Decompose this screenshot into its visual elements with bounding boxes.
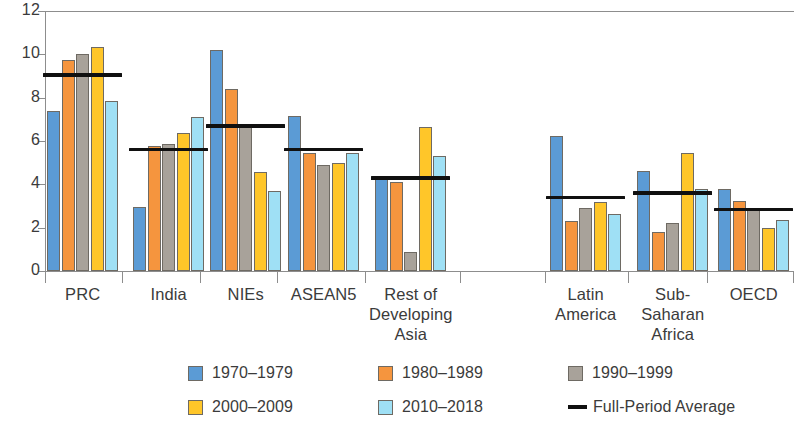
average-line bbox=[129, 148, 208, 151]
legend-swatch bbox=[378, 400, 393, 415]
bar bbox=[239, 126, 252, 271]
bar bbox=[433, 156, 446, 271]
average-line bbox=[633, 191, 712, 194]
x-axis-line bbox=[45, 271, 794, 272]
y-axis-tick-label: 4 bbox=[6, 174, 40, 192]
legend-label: Full-Period Average bbox=[593, 398, 735, 416]
x-axis-tick bbox=[45, 272, 46, 283]
x-axis-tick bbox=[628, 272, 629, 283]
legend-swatch bbox=[188, 366, 203, 381]
legend-swatch bbox=[188, 400, 203, 415]
y-axis-tick-label: 10 bbox=[6, 44, 40, 62]
legend-item[interactable]: Full-Period Average bbox=[568, 398, 735, 416]
bar bbox=[288, 116, 301, 271]
bar bbox=[550, 136, 563, 271]
average-line bbox=[546, 196, 625, 199]
average-line bbox=[206, 124, 285, 127]
bar bbox=[666, 223, 679, 271]
x-axis-tick bbox=[545, 272, 546, 283]
x-axis-tick bbox=[707, 272, 708, 283]
average-line bbox=[714, 208, 793, 211]
category-label-line: Rest of bbox=[351, 284, 471, 304]
legend-item[interactable]: 1970–1979 bbox=[188, 364, 293, 382]
x-axis-category-label: OECD bbox=[694, 284, 794, 304]
category-label-line: Saharan bbox=[613, 304, 733, 324]
bar bbox=[317, 165, 330, 271]
bar bbox=[390, 182, 403, 271]
legend-label: 1980–1989 bbox=[402, 364, 483, 382]
x-axis-tick bbox=[122, 272, 123, 283]
y-axis-tick-label: 8 bbox=[6, 88, 40, 106]
bar bbox=[210, 50, 223, 271]
bars-layer bbox=[45, 11, 794, 271]
legend-swatch bbox=[568, 366, 583, 381]
bar bbox=[76, 54, 89, 271]
bar bbox=[91, 47, 104, 271]
y-axis-tick-label: 2 bbox=[6, 218, 40, 236]
bar bbox=[695, 189, 708, 271]
bar bbox=[762, 228, 775, 271]
bar bbox=[681, 153, 694, 271]
y-axis-tick-label: 0 bbox=[6, 261, 40, 279]
grouped-bar-chart: 024681012 PRCIndiaNIEsASEAN5Rest ofDevel… bbox=[0, 0, 794, 427]
x-axis-tick bbox=[365, 272, 366, 283]
bar bbox=[346, 153, 359, 271]
bar bbox=[105, 101, 118, 271]
bar bbox=[747, 209, 760, 271]
bar bbox=[47, 111, 60, 271]
bar bbox=[254, 172, 267, 271]
bar bbox=[148, 146, 161, 271]
category-label-line: Developing bbox=[351, 304, 471, 324]
bar bbox=[375, 178, 388, 271]
bar bbox=[225, 89, 238, 271]
average-line bbox=[43, 73, 122, 76]
y-axis-tick-label: 6 bbox=[6, 131, 40, 149]
category-label-line: OECD bbox=[694, 284, 794, 304]
legend-item[interactable]: 2010–2018 bbox=[378, 398, 483, 416]
bar bbox=[608, 214, 621, 271]
legend-label: 1990–1999 bbox=[592, 364, 673, 382]
bar bbox=[579, 208, 592, 271]
bar bbox=[303, 153, 316, 271]
bar bbox=[776, 220, 789, 271]
average-line bbox=[371, 176, 450, 179]
legend-line-marker bbox=[568, 405, 587, 408]
category-label-line: Africa bbox=[613, 324, 733, 344]
bar bbox=[404, 252, 417, 272]
legend-item[interactable]: 2000–2009 bbox=[188, 398, 293, 416]
plot-area: 024681012 bbox=[45, 11, 794, 272]
chart-legend: 1970–19791980–19891990–19992000–20092010… bbox=[188, 364, 728, 422]
x-axis-tick bbox=[277, 272, 278, 283]
bar bbox=[162, 144, 175, 271]
bar bbox=[637, 171, 650, 271]
bar bbox=[133, 207, 146, 271]
legend-item[interactable]: 1990–1999 bbox=[568, 364, 673, 382]
bar bbox=[419, 127, 432, 271]
average-line bbox=[284, 148, 363, 151]
bar bbox=[565, 221, 578, 271]
bar bbox=[62, 60, 75, 271]
legend-swatch bbox=[378, 366, 393, 381]
y-axis-tick-label: 12 bbox=[6, 1, 40, 19]
bar bbox=[733, 201, 746, 271]
legend-item[interactable]: 1980–1989 bbox=[378, 364, 483, 382]
bar bbox=[652, 232, 665, 271]
legend-label: 2010–2018 bbox=[402, 398, 483, 416]
x-axis-category-label: Rest ofDevelopingAsia bbox=[351, 284, 471, 344]
bar bbox=[332, 163, 345, 271]
bar bbox=[594, 202, 607, 271]
category-label-line: Asia bbox=[351, 324, 471, 344]
legend-label: 2000–2009 bbox=[212, 398, 293, 416]
bar bbox=[177, 133, 190, 271]
x-axis-tick bbox=[460, 272, 461, 283]
bar bbox=[191, 117, 204, 271]
x-axis-tick bbox=[200, 272, 201, 283]
legend-label: 1970–1979 bbox=[212, 364, 293, 382]
bar bbox=[268, 191, 281, 271]
bar bbox=[718, 189, 731, 271]
